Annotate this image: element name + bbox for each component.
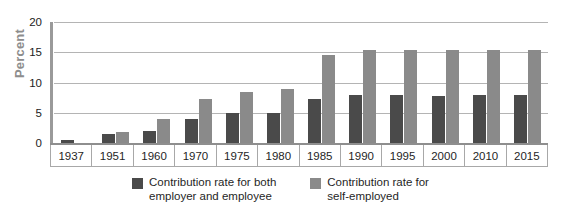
- x-tick-label: 1951: [92, 145, 133, 166]
- y-tick-label: 0: [2, 137, 42, 149]
- bar-self-employed[interactable]: [281, 89, 294, 143]
- bar-group: [466, 22, 507, 143]
- legend-swatch-icon: [310, 178, 321, 189]
- bar-employer-employee[interactable]: [349, 95, 362, 143]
- bar-group: [383, 22, 424, 143]
- bar-self-employed[interactable]: [404, 50, 417, 143]
- x-tick-label: 1937: [51, 145, 92, 166]
- bar-employer-employee[interactable]: [185, 119, 198, 143]
- x-tick-label: 1970: [175, 145, 216, 166]
- y-tick-label: 20: [2, 16, 42, 28]
- bar-self-employed[interactable]: [487, 50, 500, 143]
- legend-label: Contribution rate for self-employed: [327, 176, 429, 203]
- bar-employer-employee[interactable]: [143, 131, 156, 143]
- bar-group: [425, 22, 466, 143]
- bar-group: [54, 22, 95, 143]
- bar-self-employed[interactable]: [199, 99, 212, 143]
- bar-group: [178, 22, 219, 143]
- legend-item[interactable]: Contribution rate for self-employed: [310, 176, 429, 203]
- bar-self-employed[interactable]: [528, 50, 541, 143]
- bar-group: [136, 22, 177, 143]
- x-tick-label: 1980: [258, 145, 299, 166]
- y-axis-line: [50, 22, 53, 143]
- bar-self-employed[interactable]: [157, 119, 170, 143]
- bar-employer-employee[interactable]: [390, 95, 403, 143]
- bar-self-employed[interactable]: [363, 50, 376, 143]
- bar-employer-employee[interactable]: [514, 95, 527, 143]
- y-tick-label: 10: [2, 77, 42, 89]
- x-tick-label: 2000: [424, 145, 465, 166]
- legend-item[interactable]: Contribution rate for both employer and …: [132, 176, 276, 203]
- bar-employer-employee[interactable]: [432, 96, 445, 143]
- x-tick-label: 1990: [341, 145, 382, 166]
- bar-chart: Percent 05101520 19371951196019701975198…: [0, 0, 561, 214]
- bar-group: [301, 22, 342, 143]
- x-tick-label: 1995: [382, 145, 423, 166]
- bar-employer-employee[interactable]: [267, 113, 280, 143]
- x-tick-label: 2015: [507, 145, 548, 166]
- plot-area: 05101520: [54, 22, 548, 143]
- bar-self-employed[interactable]: [240, 92, 253, 143]
- x-axis-categories: 1937195119601970197519801985199019952000…: [50, 145, 548, 167]
- bar-group: [95, 22, 136, 143]
- legend-swatch-icon: [132, 178, 143, 189]
- bar-employer-employee[interactable]: [102, 134, 115, 143]
- bar-group: [342, 22, 383, 143]
- bar-self-employed[interactable]: [446, 50, 459, 143]
- bar-employer-employee[interactable]: [473, 95, 486, 143]
- x-tick-label: 1960: [134, 145, 175, 166]
- bar-group: [260, 22, 301, 143]
- legend-label: Contribution rate for both employer and …: [149, 176, 276, 203]
- bar-group: [219, 22, 260, 143]
- y-tick-label: 15: [2, 46, 42, 58]
- x-tick-label: 1975: [217, 145, 258, 166]
- x-tick-label: 1985: [300, 145, 341, 166]
- bar-group: [507, 22, 548, 143]
- bar-self-employed[interactable]: [116, 132, 129, 143]
- chart-legend: Contribution rate for both employer and …: [0, 176, 561, 203]
- x-tick-label: 2010: [465, 145, 506, 166]
- y-tick-label: 5: [2, 107, 42, 119]
- bar-employer-employee[interactable]: [308, 99, 321, 143]
- bar-employer-employee[interactable]: [226, 113, 239, 143]
- bar-groups: [54, 22, 548, 143]
- bar-self-employed[interactable]: [322, 55, 335, 143]
